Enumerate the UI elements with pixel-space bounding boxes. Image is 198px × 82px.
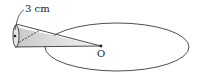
center-label: O	[97, 49, 105, 59]
base-ellipse	[45, 23, 189, 71]
shaded-sector	[15, 27, 101, 47]
center-point	[100, 45, 103, 48]
small-center-dot	[14, 35, 17, 38]
radius-label: 3 cm	[25, 4, 50, 14]
